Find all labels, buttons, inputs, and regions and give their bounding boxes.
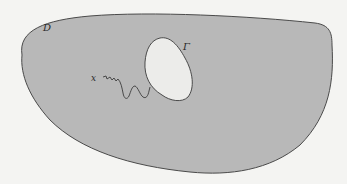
diagram-canvas: D Γ x <box>0 0 347 184</box>
point-label: x <box>91 73 96 83</box>
boundary-label: Γ <box>182 41 191 52</box>
domain-label: D <box>42 22 51 33</box>
